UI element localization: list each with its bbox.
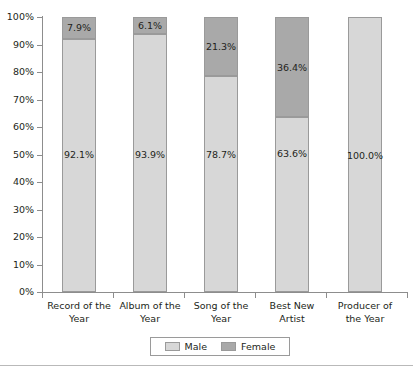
x-category-best-new-artist: Best New Artist	[255, 299, 329, 325]
x-category-producer-of-the-year: Producer of the Year	[328, 299, 402, 325]
x-category-line: Artist	[255, 312, 329, 325]
bar-segment-male[interactable]: 93.9%	[133, 34, 167, 292]
bar-segment-female[interactable]: 21.3%	[204, 17, 238, 76]
y-tick-40	[37, 182, 42, 183]
y-tick-label-80: 80%	[0, 67, 34, 77]
y-tick-label-50: 50%	[0, 150, 34, 160]
y-tick-60	[37, 127, 42, 128]
bar-label-male: 63.6%	[277, 148, 307, 159]
bar-label-male: 92.1%	[64, 149, 94, 160]
legend-label-male: Male	[185, 341, 208, 352]
legend-swatch-female-icon	[221, 342, 236, 351]
bar-label-male: 93.9%	[135, 149, 165, 160]
x-category-line: Album of the	[113, 299, 187, 312]
y-tick-30	[37, 210, 42, 211]
bar-album-of-the-year[interactable]: 6.1% 93.9%	[133, 17, 167, 292]
bar-best-new-artist[interactable]: 36.4% 63.6%	[275, 17, 309, 292]
x-category-line: Best New	[255, 299, 329, 312]
y-tick-label-0: 0%	[0, 287, 34, 297]
y-tick-label-90: 90%	[0, 40, 34, 50]
y-tick-70	[37, 100, 42, 101]
y-tick-90	[37, 45, 42, 46]
x-tick-3	[255, 293, 256, 298]
y-tick-label-70: 70%	[0, 95, 34, 105]
bar-segment-male[interactable]: 78.7%	[204, 76, 238, 292]
y-tick-100	[37, 17, 42, 18]
bar-segment-male[interactable]: 100.0%	[348, 17, 382, 292]
bar-segment-male[interactable]: 63.6%	[275, 117, 309, 292]
x-category-record-of-the-year: Record of the Year	[42, 299, 116, 325]
x-category-line: Year	[184, 312, 258, 325]
legend-item-male[interactable]: Male	[165, 341, 208, 352]
x-tick-0	[42, 293, 43, 298]
bar-segment-female[interactable]: 6.1%	[133, 17, 167, 34]
bar-song-of-the-year[interactable]: 21.3% 78.7%	[204, 17, 238, 292]
x-category-song-of-the-year: Song of the Year	[184, 299, 258, 325]
x-tick-2	[184, 293, 185, 298]
legend-swatch-male-icon	[165, 342, 180, 351]
y-tick-10	[37, 265, 42, 266]
x-category-line: the Year	[328, 312, 402, 325]
bar-label-female: 6.1%	[138, 20, 162, 31]
bar-label-female: 36.4%	[277, 62, 307, 73]
x-tick-4	[326, 293, 327, 298]
x-category-line: Producer of	[328, 299, 402, 312]
x-tick-1	[113, 293, 114, 298]
y-tick-label-40: 40%	[0, 177, 34, 187]
bar-producer-of-the-year[interactable]: 100.0%	[348, 17, 382, 292]
x-tick-5	[407, 293, 408, 298]
bar-segment-male[interactable]: 92.1%	[62, 39, 96, 292]
y-tick-20	[37, 237, 42, 238]
y-tick-label-10: 10%	[0, 260, 34, 270]
legend-item-female[interactable]: Female	[221, 341, 275, 352]
y-tick-label-20: 20%	[0, 232, 34, 242]
x-category-line: Year	[42, 312, 116, 325]
y-tick-label-30: 30%	[0, 205, 34, 215]
x-category-line: Song of the	[184, 299, 258, 312]
bar-segment-female[interactable]: 36.4%	[275, 17, 309, 117]
y-tick-label-60: 60%	[0, 122, 34, 132]
y-tick-80	[37, 72, 42, 73]
x-category-album-of-the-year: Album of the Year	[113, 299, 187, 325]
bar-label-male: 78.7%	[206, 149, 236, 160]
y-tick-50	[37, 155, 42, 156]
y-axis-line	[42, 16, 43, 293]
x-category-line: Record of the	[42, 299, 116, 312]
x-category-line: Year	[113, 312, 187, 325]
chart-legend: Male Female	[150, 337, 290, 356]
y-tick-label-100: 100%	[0, 12, 34, 22]
page-bottom-rule	[0, 365, 413, 366]
bar-label-female: 7.9%	[67, 22, 91, 33]
chart-screenshot: 100% 90% 80% 70% 60% 50% 40% 30% 20% 10%…	[0, 0, 413, 372]
bar-segment-female[interactable]: 7.9%	[62, 17, 96, 39]
top-margin	[0, 0, 413, 9]
bar-label-female: 21.3%	[206, 41, 236, 52]
legend-label-female: Female	[241, 341, 275, 352]
x-axis-line	[42, 292, 408, 293]
bar-label-male: 100.0%	[347, 150, 383, 161]
bar-record-of-the-year[interactable]: 7.9% 92.1%	[62, 17, 96, 292]
